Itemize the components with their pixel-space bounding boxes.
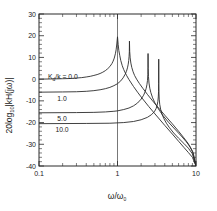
y-tick-label--30: -30	[26, 141, 36, 148]
y-tick-label--40: -40	[26, 163, 36, 170]
y-tick-labels-group: 3020100-10-20-30-40	[26, 11, 36, 170]
curve-label-0: Kd/k = 0.0	[48, 73, 78, 82]
y-tick-label-10: 10	[28, 54, 36, 61]
y-tick-label--20: -20	[26, 119, 36, 126]
plot-svg: 3020100-10-20-30-40 0.1110 Kd/k = 0.01.0…	[0, 0, 217, 211]
x-tick-label-1: 1	[116, 170, 120, 177]
bode-magnitude-figure: 20log10|kH(jω)| 3020100-10-20-30-40 0.11…	[0, 0, 217, 211]
y-tick-label-0: 0	[32, 76, 36, 83]
curve-label-1: 1.0	[57, 95, 67, 102]
x-tick-labels-group: 0.1110	[34, 170, 200, 177]
curve-labels-group: Kd/k = 0.01.05.010.0	[48, 73, 78, 133]
x-tick-label-0.1: 0.1	[34, 170, 44, 177]
curve-label-2: 5.0	[57, 115, 67, 122]
y-tick-label-30: 30	[28, 11, 36, 18]
x-tick-label-10: 10	[192, 170, 200, 177]
curve-label-3: 10.0	[55, 126, 68, 133]
x-axis-label: ω/ω0	[108, 191, 127, 202]
y-tick-label--10: -10	[26, 97, 36, 104]
y-tick-label-20: 20	[28, 32, 36, 39]
